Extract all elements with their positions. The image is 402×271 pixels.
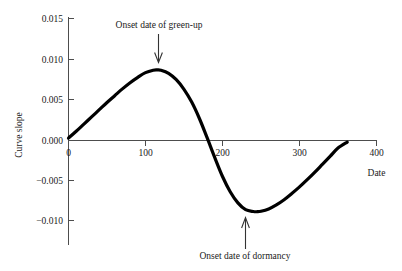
annotation-label-green-up: Onset date of green-up (116, 20, 203, 30)
x-tick-label: 300 (292, 148, 307, 158)
y-tick-label: −0.010 (36, 216, 63, 226)
y-axis-title: Curve slope (14, 112, 24, 158)
x-axis-title: Date (368, 168, 386, 178)
chart-figure: 0.015 0.010 0.005 0.000 −0.005 −0.010 0 … (0, 0, 402, 271)
annotation-label-dormancy: Onset date of dormancy (199, 251, 290, 261)
y-tick-label: −0.005 (36, 176, 63, 186)
y-tick-label: 0.015 (42, 14, 64, 24)
x-tick-label: 400 (369, 148, 384, 158)
y-tick-label: 0.005 (42, 95, 64, 105)
y-tick-label: 0.010 (42, 55, 64, 65)
y-tick-label: 0.000 (42, 136, 64, 146)
x-tick-label: 0 (66, 148, 71, 158)
x-tick-label: 100 (138, 148, 153, 158)
curve-slope-chart: 0.015 0.010 0.005 0.000 −0.005 −0.010 0 … (0, 0, 402, 271)
x-tick-label: 200 (215, 148, 230, 158)
